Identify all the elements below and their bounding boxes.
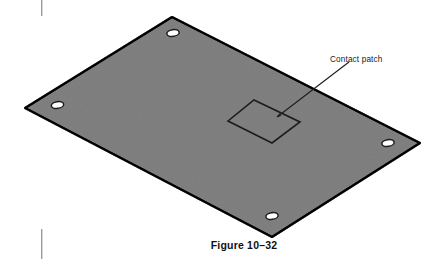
margin-mark-top-icon [41, 0, 42, 16]
plate-surface [25, 17, 420, 237]
contact-patch-label: Contact patch [330, 55, 383, 64]
figure-caption: Figure 10–32 [211, 239, 278, 251]
margin-mark-bottom-icon [41, 229, 42, 259]
figure-container: Contact patch Figure 10–32 [0, 0, 447, 268]
figure-illustration: Contact patch Figure 10–32 [0, 0, 447, 268]
